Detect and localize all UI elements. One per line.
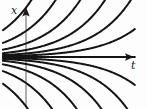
solution-curve [3, 64, 83, 109]
x-axis-label: x [11, 5, 17, 16]
solution-curves-group [3, 0, 135, 109]
t-axis-label: t [131, 60, 135, 71]
solution-curve [3, 84, 35, 109]
solution-curve [3, 0, 135, 55]
exponential-solution-curves-figure: x t [0, 0, 147, 109]
plot-canvas [0, 0, 147, 109]
